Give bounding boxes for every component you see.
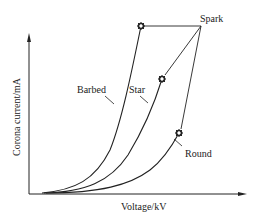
spark-marker-barbed — [137, 22, 145, 30]
leader-round — [174, 139, 182, 146]
corona-current-chart: Barbed Star Round Spark Voltage/kV Coron… — [0, 0, 253, 218]
spark-line-star — [165, 26, 201, 75]
spark-connectors — [141, 26, 201, 129]
spark-line-round — [181, 26, 201, 129]
label-leaders — [105, 96, 182, 146]
y-axis-arrow-icon — [27, 33, 31, 42]
label-barbed: Barbed — [77, 84, 106, 95]
label-spark: Spark — [200, 13, 223, 24]
x-axis-label: Voltage/kV — [121, 201, 167, 212]
curves — [42, 26, 179, 193]
label-round: Round — [185, 148, 212, 159]
curve-star — [44, 79, 162, 193]
leader-star — [140, 96, 148, 103]
y-axis-label: Corona current/mA — [11, 77, 22, 156]
axes — [29, 38, 243, 194]
spark-marker-round — [175, 129, 183, 137]
spark-marker-star — [158, 75, 166, 83]
curve-barbed — [42, 26, 141, 193]
label-star: Star — [129, 84, 146, 95]
x-axis-arrow-icon — [238, 192, 247, 196]
leader-barbed — [105, 96, 114, 104]
